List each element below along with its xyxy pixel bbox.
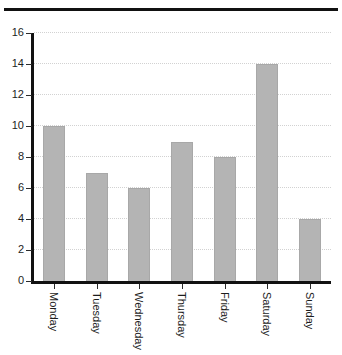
x-axis-tick	[182, 284, 183, 289]
x-axis-tick	[97, 284, 98, 289]
gridline	[34, 125, 331, 127]
x-axis-tick-label: Monday	[48, 292, 59, 331]
gridline	[34, 32, 331, 34]
y-axis-tick	[26, 281, 32, 282]
x-axis-tick-label: Sunday	[304, 292, 315, 329]
y-axis-tick-label: 12	[0, 89, 24, 100]
gridline	[34, 63, 331, 65]
bar-tuesday[interactable]	[86, 173, 108, 282]
y-axis-tick-label: 14	[0, 58, 24, 69]
bar-chart: . 0246810121416MondayTuesdayWednesdayThu…	[0, 0, 342, 355]
x-axis-tick	[139, 284, 140, 289]
x-axis-tick-label: Saturday	[261, 292, 272, 336]
y-axis-tick-label: 10	[0, 120, 24, 131]
bar-wednesday[interactable]	[128, 188, 150, 281]
x-axis-tick-label: Wednesday	[133, 292, 144, 350]
y-axis-tick	[26, 157, 32, 158]
y-axis-tick	[26, 126, 32, 127]
y-axis-tick	[26, 219, 32, 220]
bar-sunday[interactable]	[299, 219, 321, 281]
y-axis-tick-label: 0	[0, 275, 24, 286]
y-axis-tick	[26, 188, 32, 189]
y-axis-tick	[26, 33, 32, 34]
y-axis-tick	[26, 64, 32, 65]
x-axis-tick-label: Thursday	[176, 292, 187, 338]
y-axis-tick	[26, 250, 32, 251]
x-axis-tick	[267, 284, 268, 289]
bar-saturday[interactable]	[256, 64, 278, 281]
y-axis-tick-label: 16	[0, 27, 24, 38]
y-axis-tick-label: 2	[0, 244, 24, 255]
gridline	[34, 94, 331, 96]
bar-monday[interactable]	[43, 126, 65, 281]
bar-thursday[interactable]	[171, 142, 193, 282]
x-axis-tick	[310, 284, 311, 289]
bar-friday[interactable]	[214, 157, 236, 281]
y-axis-tick-label: 4	[0, 213, 24, 224]
x-axis-tick-label: Friday	[219, 292, 230, 323]
x-axis-line	[31, 281, 331, 284]
x-axis-tick-label: Tuesday	[91, 292, 102, 334]
x-axis-tick	[54, 284, 55, 289]
plot-area: 0246810121416MondayTuesdayWednesdayThurs…	[0, 0, 342, 355]
y-axis-tick	[26, 95, 32, 96]
y-axis-line	[31, 33, 34, 284]
y-axis-tick-label: 8	[0, 151, 24, 162]
y-axis-tick-label: 6	[0, 182, 24, 193]
x-axis-tick	[225, 284, 226, 289]
